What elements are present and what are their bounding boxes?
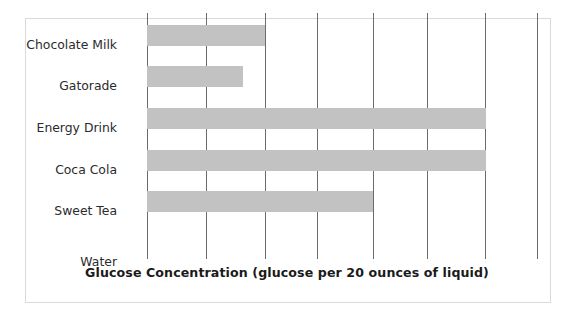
gridline-7	[537, 13, 538, 259]
category-label-coca-cola: Coca Cola	[0, 163, 117, 177]
category-axis-labels: Chocolate Milk Gatorade Energy Drink Coc…	[0, 13, 117, 259]
gridline-6	[485, 13, 486, 259]
gridline-2	[265, 13, 266, 259]
gridline-0	[147, 13, 148, 259]
gridline-5	[427, 13, 428, 259]
gridline-1	[206, 13, 207, 259]
bar-gatorade	[147, 66, 243, 87]
bar-sweet-tea	[147, 191, 373, 212]
category-label-sweet-tea: Sweet Tea	[0, 204, 117, 218]
x-axis-title: Glucose Concentration (glucose per 20 ou…	[0, 265, 574, 280]
category-label-chocolate-milk: Chocolate Milk	[0, 38, 117, 52]
plot-area	[122, 13, 516, 259]
bar-energy-drink	[147, 108, 486, 129]
category-label-gatorade: Gatorade	[0, 79, 117, 93]
gridline-3	[317, 13, 318, 259]
bar-chocolate-milk	[147, 25, 265, 46]
bar-coca-cola	[147, 150, 486, 171]
gridline-4	[373, 13, 374, 259]
chart-container: Chocolate Milk Gatorade Energy Drink Coc…	[0, 0, 574, 319]
category-label-energy-drink: Energy Drink	[0, 121, 117, 135]
